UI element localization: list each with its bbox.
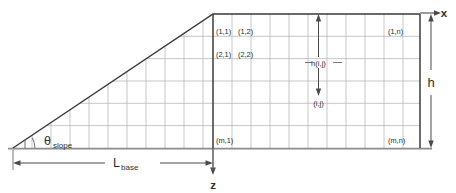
cell-height-arrowhead-top	[316, 14, 321, 22]
height-arrowhead-bottom	[428, 141, 433, 149]
slope-angle-label-subscript: slope	[53, 141, 73, 150]
base-arrowhead-left	[13, 160, 21, 165]
height-arrowhead-top	[428, 14, 433, 22]
x-axis-label: x	[441, 7, 448, 19]
base-label-subscript: base	[121, 163, 139, 172]
cell-label-2-1: (2,1)	[216, 50, 231, 59]
base-label-main: L	[113, 156, 120, 170]
base-dimension-label: L base	[113, 156, 139, 172]
cell-height-arrowhead-bottom	[316, 89, 321, 97]
cell-index-label: (i,j)	[313, 99, 324, 108]
slope-angle-label: θ slope	[44, 134, 73, 150]
cell-label-m-1: (m,1)	[216, 136, 233, 145]
cell-height-label: h(i,j)	[311, 59, 326, 68]
cell-label-m-n: (m,n)	[388, 136, 405, 145]
cell-label-2-2: (2,2)	[238, 50, 253, 59]
z-axis-label: z	[210, 179, 216, 191]
slope-angle-arc	[32, 138, 35, 148]
height-dimension-label: h	[427, 75, 434, 90]
slope-angle-label-main: θ	[44, 134, 51, 148]
cell-height-dimension	[305, 14, 342, 96]
cell-label-1-2: (1,2)	[238, 27, 253, 36]
slope-grid-diagram: x z h L base θ	[0, 0, 456, 193]
base-arrowhead-right	[206, 160, 214, 165]
x-axis	[420, 10, 441, 16]
cell-label-1-n: (1,n)	[388, 27, 403, 36]
diagram-canvas: x z h L base θ	[0, 0, 456, 193]
cell-label-1-1: (1,1)	[216, 27, 231, 36]
